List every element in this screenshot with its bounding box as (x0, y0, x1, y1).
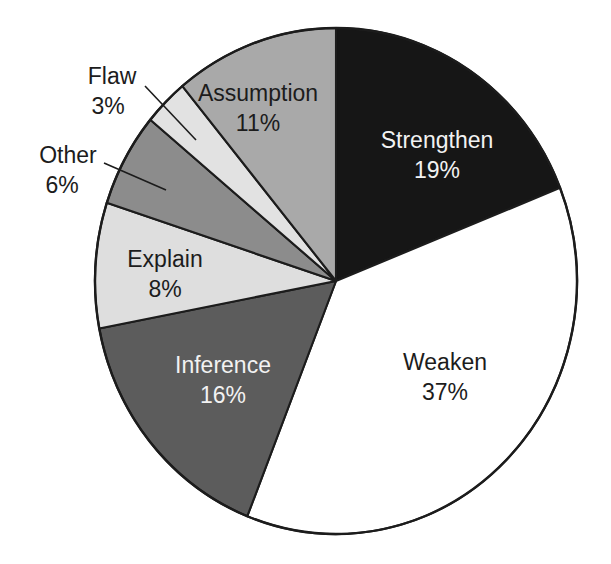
slice-value-flaw: 3% (91, 93, 124, 119)
pie-chart-figure: Strengthen19%Weaken37%Inference16%Explai… (0, 0, 611, 564)
slice-name-weaken: Weaken (403, 349, 487, 375)
slice-value-inference: 16% (200, 382, 246, 408)
pie-chart-svg: Strengthen19%Weaken37%Inference16%Explai… (0, 0, 611, 564)
slice-name-inference: Inference (175, 352, 271, 378)
slice-value-other: 6% (45, 172, 78, 198)
slice-name-flaw: Flaw (88, 63, 137, 89)
slice-name-assumption: Assumption (198, 80, 318, 106)
slice-value-weaken: 37% (422, 379, 468, 405)
slice-name-strengthen: Strengthen (381, 127, 494, 153)
slice-value-strengthen: 19% (414, 157, 460, 183)
slice-name-explain: Explain (127, 246, 202, 272)
slice-value-explain: 8% (148, 276, 181, 302)
slice-value-assumption: 11% (236, 110, 280, 136)
slice-name-other: Other (39, 142, 97, 168)
